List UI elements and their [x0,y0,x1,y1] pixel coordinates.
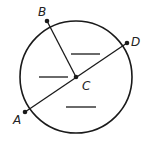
label-A: A [12,113,21,127]
label-B: B [38,5,46,19]
point-C [74,75,79,80]
point-D [125,41,130,46]
circle-diagram: A B C D [0,0,143,145]
point-A [23,110,28,115]
radius-BC [47,21,76,77]
label-C: C [82,79,91,93]
diagram-canvas: A B C D [0,0,143,145]
label-D: D [131,35,140,49]
point-B [45,19,50,24]
